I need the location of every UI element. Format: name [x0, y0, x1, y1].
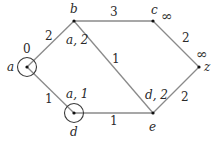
weight-a-d: 1 [45, 92, 53, 106]
weight-c-z: 2 [182, 31, 190, 45]
edge-c-z [153, 21, 199, 67]
node-a [25, 65, 28, 68]
node-b [72, 19, 75, 22]
node-label-e: e [149, 120, 156, 134]
node-label-d: d [70, 125, 78, 139]
node-label-b: b [70, 2, 78, 16]
node-d [72, 111, 75, 114]
dist-label-b: a, 2 [66, 33, 88, 47]
dist-label-a: 0 [23, 42, 31, 56]
node-label-c: c [151, 3, 158, 17]
weight-a-b: 2 [45, 29, 53, 43]
dist-label-z: ∞ [196, 46, 208, 62]
node-label-z: z [203, 60, 211, 74]
weight-b-e: 1 [112, 52, 120, 66]
weight-d-e: 1 [110, 114, 118, 128]
node-label-a: a [7, 60, 14, 74]
weight-b-c: 3 [110, 5, 118, 19]
dist-label-c: ∞ [161, 8, 173, 24]
dist-label-d: a, 1 [66, 87, 88, 101]
node-z [197, 65, 200, 68]
node-e [151, 111, 154, 114]
weight-e-z: 2 [181, 90, 189, 104]
dist-label-e: d, 2 [145, 88, 168, 102]
weighted-graph-diagram: a b c z d e 0 a, 2 ∞ ∞ a, 1 d, 2 2 3 2 1… [0, 0, 221, 143]
node-c [151, 19, 154, 22]
